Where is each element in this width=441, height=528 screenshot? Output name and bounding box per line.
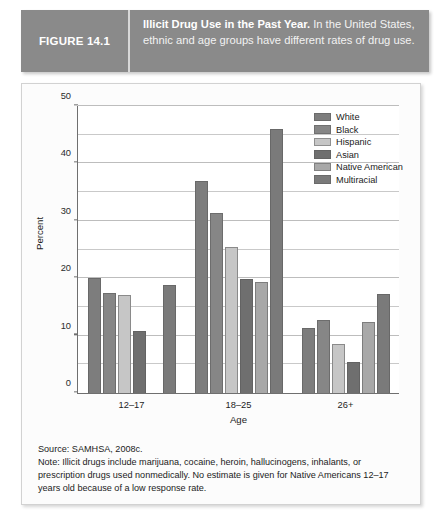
bar-hispanic-1: [118, 295, 131, 393]
source-line: Source: SAMHSA, 2008c.: [38, 443, 406, 456]
legend-swatch-icon: [314, 163, 331, 172]
x-axis-label: Age: [78, 414, 399, 425]
bar-native-american-3: [362, 322, 375, 393]
y-tick-label-40: 40: [61, 148, 71, 158]
figure-header-band: FIGURE 14.1 Illicit Drug Use in the Past…: [21, 10, 429, 72]
bar-native-american-2: [255, 282, 268, 393]
bar-hispanic-2: [225, 247, 238, 393]
y-tick-label-20: 20: [61, 263, 71, 273]
y-tick-label-50: 50: [61, 91, 71, 101]
figure-footnotes: Source: SAMHSA, 2008c. Note: Illicit dru…: [38, 443, 406, 495]
bar-group-1: 12–17: [78, 106, 185, 393]
x-tick-label-2: 18–25: [185, 400, 292, 410]
figure-page: FIGURE 14.1 Illicit Drug Use in the Past…: [0, 0, 441, 528]
legend-label: White: [336, 112, 360, 122]
bar-multiracial-1: [163, 285, 176, 393]
bar-white-1: [88, 278, 101, 393]
legend-swatch-icon: [314, 125, 331, 134]
legend-label: Asian: [336, 150, 359, 160]
legend-item-black: Black: [314, 125, 403, 135]
legend-swatch-icon: [314, 113, 331, 122]
y-tick-label-30: 30: [61, 206, 71, 216]
legend-swatch-icon: [314, 138, 331, 147]
x-tick-label-1: 12–17: [78, 400, 185, 410]
bar-black-3: [317, 320, 330, 393]
bar-asian-3: [347, 362, 360, 393]
bar-multiracial-3: [377, 294, 390, 393]
legend-label: Multiracial: [336, 175, 377, 185]
note-line: Note: Illicit drugs include marijuana, c…: [38, 456, 406, 495]
bar-group-2: 18–25: [185, 106, 292, 393]
legend-item-native-american: Native American: [314, 162, 403, 172]
bar-white-2: [195, 181, 208, 393]
y-tick-label-10: 10: [61, 321, 71, 331]
legend-item-white: White: [314, 112, 403, 122]
legend-item-multiracial: Multiracial: [314, 175, 403, 185]
bar-asian-2: [240, 279, 253, 393]
bar-black-2: [210, 213, 223, 393]
y-axis-label: Percent: [34, 217, 45, 250]
figure-card: Percent 01020304050 12–1718–2526+ Age Wh…: [21, 83, 421, 505]
legend-item-hispanic: Hispanic: [314, 137, 403, 147]
legend-swatch-icon: [314, 175, 331, 184]
chart-legend: WhiteBlackHispanicAsianNative AmericanMu…: [314, 112, 403, 185]
legend-swatch-icon: [314, 150, 331, 159]
bar-multiracial-2: [270, 129, 283, 393]
figure-caption: Illicit Drug Use in the Past Year. In th…: [130, 10, 429, 72]
figure-number-label: FIGURE 14.1: [21, 10, 130, 72]
legend-label: Native American: [336, 162, 403, 172]
legend-label: Black: [336, 125, 358, 135]
bar-black-1: [103, 293, 116, 393]
bar-asian-1: [133, 331, 146, 393]
y-tick-label-0: 0: [66, 378, 71, 388]
bar-hispanic-3: [332, 344, 345, 393]
legend-label: Hispanic: [336, 137, 371, 147]
x-tick-label-3: 26+: [292, 400, 399, 410]
figure-caption-title: Illicit Drug Use in the Past Year.: [143, 18, 310, 30]
bar-white-3: [302, 328, 315, 393]
legend-item-asian: Asian: [314, 150, 403, 160]
